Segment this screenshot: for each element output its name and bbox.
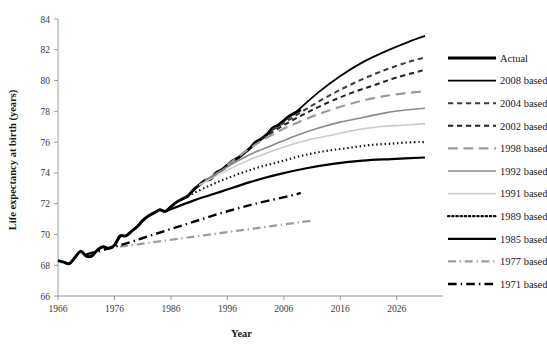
x-axis-title: Year: [231, 328, 252, 339]
legend-label: Actual: [500, 53, 528, 64]
legend-label: 1989 based: [500, 211, 547, 222]
legend-label: 1992 based: [500, 166, 547, 177]
y-tick-label: 80: [41, 76, 51, 86]
series-line-1971-based: [86, 193, 301, 255]
x-tick-label: 2016: [331, 304, 350, 314]
x-tick-label: 1966: [49, 304, 68, 314]
legend-item-1998-based[interactable]: 1998 based: [448, 143, 547, 154]
legend-item-1977-based[interactable]: 1977 based: [448, 256, 547, 267]
series-line-1985-based: [165, 158, 425, 212]
legend-label: 1998 based: [500, 143, 547, 154]
y-tick-label: 82: [41, 45, 51, 55]
x-tick-label: 2026: [387, 304, 406, 314]
legend-label: 1977 based: [500, 256, 547, 267]
legend-item-1989-based[interactable]: 1989 based: [448, 211, 547, 222]
legend-item-1971-based[interactable]: 1971 based: [448, 279, 547, 290]
x-axis: 1966197619861996200620162026: [49, 296, 444, 314]
series-line-2008-based: [295, 36, 425, 113]
life-expectancy-line-chart: 66687072747678808284 1966197619861996200…: [0, 0, 547, 346]
legend-label: 2002 based: [500, 121, 547, 132]
legend-item-actual[interactable]: Actual: [448, 53, 528, 64]
series-line-actual: [58, 110, 301, 264]
y-tick-label: 68: [41, 261, 51, 271]
legend-label: 1985 based: [500, 234, 547, 245]
legend-label: 1971 based: [500, 279, 547, 290]
legend-item-2008-based[interactable]: 2008 based: [448, 75, 547, 86]
x-tick-label: 1996: [218, 304, 237, 314]
legend-label: 2004 based: [500, 98, 547, 109]
x-tick-label: 1976: [105, 304, 124, 314]
x-tick-label: 2006: [274, 304, 293, 314]
y-tick-label: 84: [41, 15, 51, 25]
y-axis: 66687072747678808284: [41, 15, 59, 302]
series-line-1991-based: [199, 124, 425, 186]
legend-item-1985-based[interactable]: 1985 based: [448, 234, 547, 245]
chart-legend: Actual2008 based2004 based2002 based1998…: [448, 53, 547, 290]
series-layer: [58, 36, 425, 264]
y-tick-label: 70: [41, 230, 51, 240]
legend-item-1992-based[interactable]: 1992 based: [448, 166, 547, 177]
series-line-1977-based: [120, 221, 312, 247]
series-line-1992-based: [205, 108, 425, 180]
y-tick-label: 74: [41, 168, 51, 178]
y-tick-label: 66: [41, 292, 51, 302]
legend-item-2002-based[interactable]: 2002 based: [448, 121, 547, 132]
legend-label: 2008 based: [500, 75, 547, 86]
y-axis-title: Life expectancy at birth (years): [7, 89, 19, 230]
y-tick-label: 72: [41, 199, 51, 209]
legend-item-1991-based[interactable]: 1991 based: [448, 188, 547, 199]
y-tick-label: 78: [41, 107, 51, 117]
chart-container: 66687072747678808284 1966197619861996200…: [0, 0, 547, 346]
legend-label: 1991 based: [500, 188, 547, 199]
y-tick-label: 76: [41, 138, 51, 148]
legend-item-2004-based[interactable]: 2004 based: [448, 98, 547, 109]
x-tick-label: 1986: [161, 304, 180, 314]
